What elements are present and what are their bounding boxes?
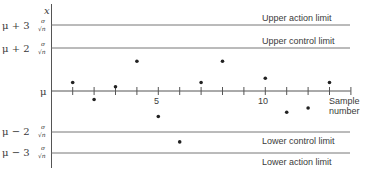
data-point [264,76,268,80]
data-point [178,140,182,144]
data-point [306,106,310,110]
svg-text:σ: σ [41,144,46,151]
upper-control-text: Upper control limit [262,36,335,46]
svg-text:√n: √n [38,48,46,55]
tick-label-10: 10 [258,96,268,106]
upper-control-axis-label: μ + 2 σ √n [2,40,46,55]
control-chart: x Upper action limit Upper control limit… [0,0,372,181]
lower-action-axis-label: μ − 3 σ √n [2,144,46,159]
x-axis-label-line2: number [329,106,360,116]
svg-text:μ − 3: μ − 3 [2,147,30,158]
data-point [328,81,332,85]
svg-text:σ: σ [41,40,46,47]
lower-control-text: Lower control limit [262,136,335,146]
svg-text:μ + 3: μ + 3 [2,20,30,31]
tick-label-5: 5 [154,96,159,106]
svg-text:μ + 2: μ + 2 [2,43,30,54]
svg-text:σ: σ [41,17,46,24]
data-point [92,98,96,102]
data-point [157,115,161,119]
data-points [71,60,331,144]
mu-label: μ [40,86,47,97]
lower-action-text: Lower action limit [262,157,332,167]
svg-text:√n: √n [38,25,46,32]
data-point [71,81,75,85]
svg-text:√n: √n [38,152,46,159]
y-axis-label: x [44,5,50,16]
lower-control-axis-label: μ − 2 σ √n [2,123,46,138]
svg-text:σ: σ [41,123,46,130]
svg-text:√n: √n [38,131,46,138]
data-point [135,60,139,64]
svg-text:μ − 2: μ − 2 [2,126,30,137]
data-point [221,60,225,64]
upper-action-axis-label: μ + 3 σ √n [2,17,46,32]
x-axis-label-line1: Sample [329,96,360,106]
upper-action-text: Upper action limit [262,13,332,23]
data-point [199,81,203,85]
data-point [285,110,289,114]
data-point [114,85,118,89]
